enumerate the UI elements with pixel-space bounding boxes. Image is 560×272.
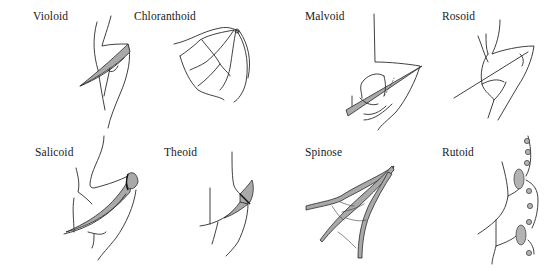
- chloranthoid-tooth-drawing: [140, 0, 280, 136]
- rutoid-tooth-drawing: [420, 136, 560, 272]
- rosoid-tooth-drawing: [420, 0, 560, 136]
- panel-theoid: Theoid: [140, 136, 280, 272]
- violoid-tooth-drawing: [0, 0, 140, 136]
- panel-violoid: Violoid: [0, 0, 140, 136]
- salicoid-tooth-drawing: [0, 136, 150, 272]
- panel-malvoid: Malvoid: [280, 0, 420, 136]
- panel-salicoid: Salicoid: [0, 136, 140, 272]
- malvoid-tooth-drawing: [280, 0, 420, 136]
- panel-rutoid: Rutoid: [420, 136, 560, 272]
- spinose-tooth-drawing: [280, 136, 430, 272]
- theoid-tooth-drawing: [140, 136, 280, 272]
- panel-chloranthoid: Chloranthoid: [140, 0, 280, 136]
- panel-rosoid: Rosoid: [420, 0, 560, 136]
- panel-spinose: Spinose: [280, 136, 420, 272]
